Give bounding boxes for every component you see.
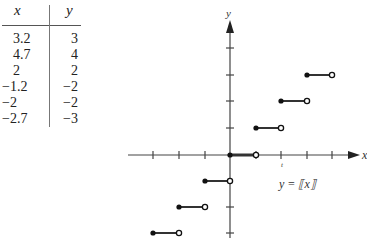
y-axis-label: y: [225, 7, 231, 19]
open-endpoints: [176, 72, 334, 235]
tick-label: t: [281, 161, 284, 169]
x-axis-arrow-icon: [348, 151, 360, 159]
function-label: y = ⟦x⟧: [278, 177, 318, 191]
x-axis-label: x: [361, 148, 367, 162]
y-axis-arrow-icon: [226, 20, 234, 33]
step-function-graph: x y t y = ⟦x⟧: [0, 0, 367, 238]
